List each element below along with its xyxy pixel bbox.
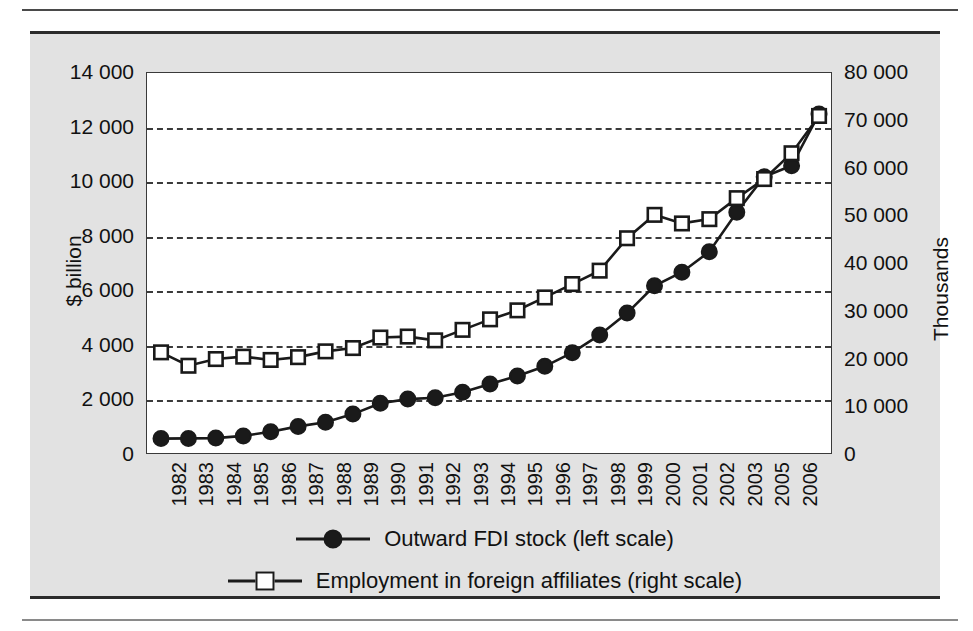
series-line (161, 116, 819, 366)
x-axis-tick-label: 1993 (470, 462, 493, 507)
data-point-marker-square (346, 341, 360, 355)
data-point-marker-circle (345, 407, 360, 422)
data-point-marker-circle (154, 431, 169, 446)
data-point-marker-square (401, 330, 415, 344)
figure-panel: $ billion Thousands 02 0004 0006 0008 00… (30, 31, 940, 599)
data-point-marker-square (648, 208, 662, 222)
data-point-marker-circle (647, 278, 662, 293)
data-point-marker-circle (674, 265, 689, 280)
left-axis-tick-label: 12 000 (70, 115, 134, 139)
left-axis-tick-label: 10 000 (70, 169, 134, 193)
x-axis-tick-label: 2002 (716, 462, 739, 507)
left-axis-tick-label: 6 000 (81, 278, 134, 302)
x-axis-tick-label: 1983 (195, 462, 218, 507)
right-axis-tick-label: 10 000 (844, 394, 908, 418)
bottom-rule (22, 619, 958, 621)
right-axis-tick-label: 50 000 (844, 203, 908, 227)
data-point-marker-square (209, 352, 223, 366)
x-axis-tick-label: 2000 (662, 462, 685, 507)
x-axis-tick-label: 1994 (497, 462, 520, 507)
data-point-marker-circle (318, 415, 333, 430)
x-axis-tick-label: 1982 (168, 462, 191, 507)
legend-label: Employment in foreign affiliates (right … (316, 568, 742, 594)
data-point-marker-circle (263, 424, 278, 439)
right-axis-tick-label: 60 000 (844, 156, 908, 180)
legend-item: Employment in foreign affiliates (right … (30, 568, 940, 594)
right-axis-tick-label: 40 000 (844, 251, 908, 275)
plot-area (146, 72, 832, 454)
open-square-icon (255, 572, 274, 591)
x-axis-tick-label: 1986 (278, 462, 301, 507)
data-point-marker-circle (592, 327, 607, 342)
data-point-marker-circle (565, 345, 580, 360)
x-axis-tick-label: 1990 (387, 462, 410, 507)
data-point-marker-circle (510, 368, 525, 383)
data-point-marker-circle (400, 392, 415, 407)
x-axis-tick-label: 1992 (442, 462, 465, 507)
left-axis-tick-label: 2 000 (81, 387, 134, 411)
x-axis-tick-label: 1991 (415, 462, 438, 507)
data-point-marker-square (374, 331, 388, 345)
x-axis-tick-label: 1998 (607, 462, 630, 507)
data-point-marker-square (182, 359, 196, 373)
legend-item: Outward FDI stock (left scale) (30, 526, 940, 552)
data-point-marker-circle (729, 205, 744, 220)
x-axis-tick-label: 2006 (799, 462, 822, 507)
data-point-marker-circle (483, 377, 498, 392)
right-axis-tick-label: 20 000 (844, 347, 908, 371)
x-axis-tick-label: 1996 (552, 462, 575, 507)
data-point-marker-circle (236, 428, 251, 443)
legend-marker-filled-circle (296, 529, 370, 549)
x-axis-tick-label: 1988 (333, 462, 356, 507)
top-rule (22, 9, 958, 11)
data-point-marker-square (730, 191, 744, 205)
figure-page: $ billion Thousands 02 0004 0006 0008 00… (0, 0, 973, 631)
data-point-marker-circle (291, 419, 306, 434)
right-axis-tick-label: 80 000 (844, 60, 908, 84)
x-axis-tick-label: 1997 (579, 462, 602, 507)
data-point-marker-square (538, 291, 552, 305)
data-point-marker-square (456, 323, 470, 337)
filled-circle-icon (324, 530, 343, 549)
data-point-marker-circle (181, 431, 196, 446)
x-axis-tick-label: 2005 (771, 462, 794, 507)
right-axis-tick-label: 70 000 (844, 108, 908, 132)
chart-legend: Outward FDI stock (left scale)Employment… (30, 526, 940, 610)
data-point-marker-square (675, 217, 689, 231)
x-axis-tick-label: 1987 (305, 462, 328, 507)
data-point-marker-circle (702, 244, 717, 259)
x-axis-tick-label: 2003 (744, 462, 767, 507)
data-point-marker-square (785, 147, 799, 161)
legend-label: Outward FDI stock (left scale) (384, 526, 674, 552)
series-layer (147, 73, 832, 454)
data-point-marker-square (703, 212, 717, 226)
data-point-marker-circle (428, 390, 443, 405)
data-point-marker-square (428, 334, 442, 348)
data-point-marker-circle (208, 431, 223, 446)
data-point-marker-square (154, 346, 168, 360)
data-point-marker-square (237, 350, 251, 364)
x-axis-tick-label: 1995 (524, 462, 547, 507)
right-axis-tick-label: 30 000 (844, 299, 908, 323)
data-point-marker-square (319, 345, 333, 359)
x-axis-tick-label: 1985 (250, 462, 273, 507)
plot-wrapper (146, 72, 832, 454)
left-axis-tick-label: 4 000 (81, 333, 134, 357)
data-point-marker-circle (537, 359, 552, 374)
x-axis-tick-label: 1989 (360, 462, 383, 507)
data-point-marker-square (291, 350, 305, 364)
data-point-marker-circle (373, 396, 388, 411)
data-point-marker-square (511, 304, 525, 318)
data-point-marker-square (812, 109, 826, 123)
x-axis-tick-label: 1999 (634, 462, 657, 507)
data-point-marker-square (566, 277, 580, 291)
right-axis-tick-label: 0 (844, 442, 856, 466)
data-point-marker-square (620, 232, 634, 246)
x-axis-tick-label: 1984 (223, 462, 246, 507)
data-point-marker-circle (455, 385, 470, 400)
x-axis-tick-label: 2001 (689, 462, 712, 507)
left-axis-tick-label: 14 000 (70, 60, 134, 84)
data-point-marker-square (264, 353, 278, 367)
data-point-marker-square (593, 264, 607, 278)
right-axis-label: Thousands (929, 237, 953, 341)
